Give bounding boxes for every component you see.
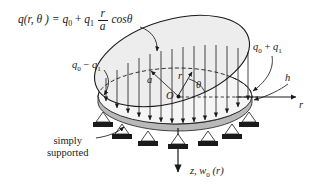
edge-load-max-label: q0 + q1 [253, 42, 282, 55]
equation-lhs: q(r, θ ) = [18, 13, 60, 25]
deflection-argument: (r) [213, 165, 224, 176]
boundary-condition-line-2: supported [47, 147, 88, 159]
edge-max-sub2: 1 [278, 47, 282, 55]
origin-dot [177, 95, 181, 99]
thickness-label: h [285, 73, 290, 84]
equation-term1-subscript: 0 [68, 19, 72, 28]
load-equation-label: q(r, θ ) = q0 + q1 r a cosθ [18, 8, 132, 32]
deflection-subscript: 0 [206, 171, 210, 179]
equation-plus: + [75, 13, 82, 25]
radial-coordinate-label: r [178, 71, 182, 82]
edge-min-sub2: 1 [97, 65, 101, 73]
deflection-axis-z: z, [190, 165, 197, 176]
equation-term2-subscript: 1 [90, 19, 94, 28]
deflection-axis-label: z, w0 (r) [190, 166, 224, 179]
roller-support [198, 131, 218, 146]
edge-min-sub1: 0 [77, 65, 81, 73]
edge-max-operator: + [264, 41, 270, 52]
plate-radius-label: a [147, 75, 152, 86]
boundary-condition-line-1: simply [47, 135, 88, 147]
leader-edge-max [253, 56, 272, 91]
edge-max-sub1: 0 [258, 47, 262, 55]
roller-support [138, 131, 158, 146]
equation-cosine-term: cosθ [111, 13, 132, 25]
plate-load-diagram: q(r, θ ) = q0 + q1 r a cosθ q0 − q1 q0 +… [0, 0, 314, 186]
roller-support [168, 134, 188, 149]
r-axis-label: r [299, 100, 303, 111]
origin-label: O [166, 91, 174, 102]
roller-support [112, 124, 132, 139]
fraction-denominator: a [98, 20, 108, 33]
boundary-condition-label: simply supported [47, 135, 88, 160]
equation-fraction: r a [98, 8, 108, 32]
angle-coordinate-label: θ [196, 80, 201, 91]
edge-min-operator: − [83, 59, 89, 70]
edge-load-min-label: q0 − q1 [72, 60, 101, 73]
fraction-numerator: r [98, 8, 108, 20]
